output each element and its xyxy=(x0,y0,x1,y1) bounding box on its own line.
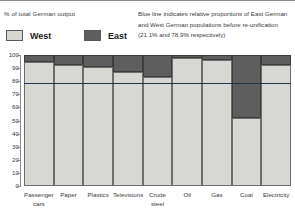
x-axis-label: Coal xyxy=(232,191,262,200)
x-axis-label: Gas xyxy=(202,191,232,200)
bar-segment-east[interactable] xyxy=(143,55,173,77)
y-axis-tick: 70 xyxy=(0,94,24,102)
x-axis-label: Televisions xyxy=(113,191,143,200)
y-axis-tick-mark xyxy=(17,186,21,187)
y-axis-tick-mark xyxy=(17,55,21,56)
y-axis-tick-mark xyxy=(17,68,21,69)
bar-segment-west[interactable] xyxy=(24,62,54,186)
y-axis-tick-mark xyxy=(17,81,21,82)
bar-segment-east[interactable] xyxy=(24,55,54,62)
y-axis-tick: 30 xyxy=(0,147,24,155)
population-reference-line xyxy=(24,83,291,84)
bar-segment-east[interactable] xyxy=(261,55,291,65)
bar-segment-west[interactable] xyxy=(143,77,173,186)
stacked-bar[interactable] xyxy=(143,55,173,186)
bar-segment-east[interactable] xyxy=(54,55,84,65)
y-axis-tick: 60 xyxy=(0,107,24,115)
y-axis-tick-mark xyxy=(17,94,21,95)
x-axis-label: Crude steel xyxy=(143,191,173,208)
x-axis-label: Paper xyxy=(54,191,84,200)
stacked-bar[interactable] xyxy=(232,55,262,186)
chart-plot-area: 0102030405060708090100 Passenger carsPap… xyxy=(0,0,295,219)
y-axis-tick-mark xyxy=(17,121,21,122)
y-axis-tick: 0 xyxy=(0,186,24,194)
stacked-bar[interactable] xyxy=(113,55,143,186)
y-axis-tick: 10 xyxy=(0,173,24,181)
stacked-bar[interactable] xyxy=(261,55,291,186)
stacked-bar[interactable] xyxy=(54,55,84,186)
bar-segment-west[interactable] xyxy=(232,118,262,186)
y-axis-tick: 100 xyxy=(0,55,24,63)
bar-segment-west[interactable] xyxy=(83,67,113,186)
x-axis-label: Electricity xyxy=(261,191,291,200)
bar-group xyxy=(24,55,291,186)
y-axis-tick-mark xyxy=(17,134,21,135)
stacked-bar[interactable] xyxy=(172,55,202,186)
stacked-bar[interactable] xyxy=(202,55,232,186)
bar-segment-east[interactable] xyxy=(202,55,232,60)
bar-segment-east[interactable] xyxy=(83,55,113,67)
y-axis-tick: 40 xyxy=(0,134,24,142)
x-axis-label: Plastics xyxy=(83,191,113,200)
y-axis-tick: 20 xyxy=(0,160,24,168)
y-axis-tick-mark xyxy=(17,173,21,174)
bar-segment-east[interactable] xyxy=(172,55,202,58)
y-axis-tick: 80 xyxy=(0,81,24,89)
bar-segment-east[interactable] xyxy=(232,55,262,118)
y-axis-tick: 50 xyxy=(0,121,24,129)
bar-segment-west[interactable] xyxy=(113,72,143,186)
stacked-bar[interactable] xyxy=(24,55,54,186)
y-axis-tick: 90 xyxy=(0,68,24,76)
y-axis-tick-mark xyxy=(17,147,21,148)
stacked-bar[interactable] xyxy=(83,55,113,186)
x-axis-label: Oil xyxy=(172,191,202,200)
bar-segment-west[interactable] xyxy=(172,58,202,186)
x-axis-labels: Passenger carsPaperPlasticsTelevisionsCr… xyxy=(24,191,291,217)
y-axis-tick-mark xyxy=(17,160,21,161)
x-axis-label: Passenger cars xyxy=(24,191,54,208)
y-axis-tick-mark xyxy=(17,107,21,108)
bar-segment-east[interactable] xyxy=(113,55,143,72)
bar-segment-west[interactable] xyxy=(202,60,232,186)
